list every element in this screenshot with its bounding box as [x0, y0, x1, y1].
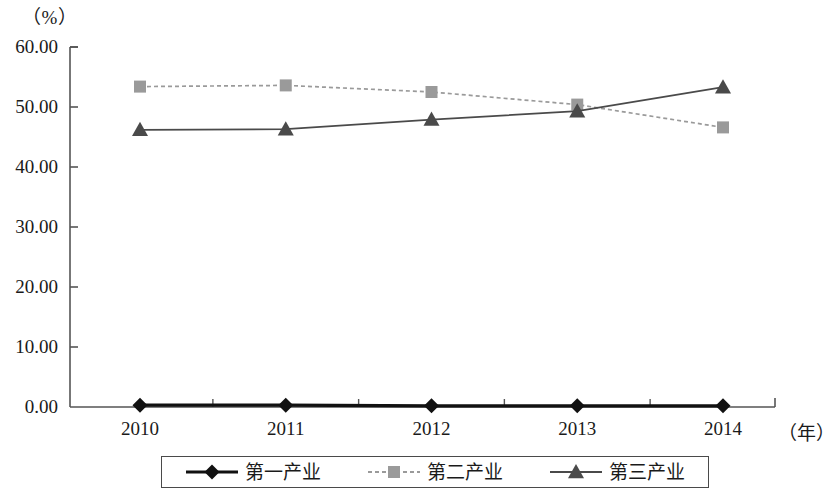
data-point-marker-diamond [205, 465, 220, 480]
data-point-marker-diamond [133, 398, 148, 413]
legend-marker [205, 465, 220, 480]
plot-area [0, 0, 825, 488]
legend-swatch-diamond [185, 464, 239, 480]
legend-label: 第一产业 [245, 463, 321, 482]
legend-item-3[interactable]: 第三产业 [547, 463, 687, 482]
legend-item-1[interactable]: 第一产业 [183, 463, 323, 482]
axis-lines [70, 47, 775, 407]
legend-label: 第二产业 [427, 463, 503, 482]
data-point-marker-diamond [570, 398, 585, 413]
data-point-marker-triangle [132, 122, 148, 136]
data-point-marker-square [426, 86, 438, 98]
series-1 [133, 398, 731, 414]
chart-container: （%） 0.0010.0020.0030.0040.0050.0060.00 2… [0, 0, 825, 488]
legend-item-2[interactable]: 第二产业 [365, 463, 505, 482]
data-point-marker-square [717, 121, 729, 133]
legend-swatch-triangle [549, 464, 603, 480]
y-axis-ticks [70, 47, 78, 347]
legend-swatch-square [367, 464, 421, 480]
legend-marker [388, 466, 400, 478]
data-point-marker-diamond [278, 398, 293, 413]
chart-legend: 第一产业第二产业第三产业 [161, 456, 709, 488]
data-point-marker-square [388, 466, 400, 478]
data-point-marker-diamond [424, 398, 439, 413]
data-point-marker-square [134, 81, 146, 93]
data-point-marker-diamond [716, 398, 731, 413]
data-point-marker-triangle [715, 79, 731, 93]
data-point-marker-square [280, 79, 292, 91]
legend-label: 第三产业 [609, 463, 685, 482]
